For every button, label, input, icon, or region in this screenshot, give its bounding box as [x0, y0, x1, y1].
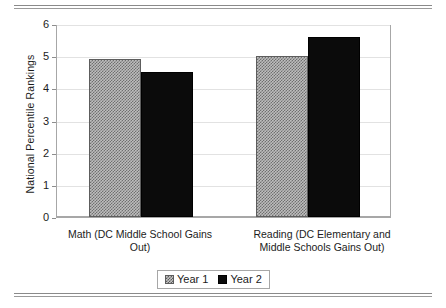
y-tick-label-5: 5	[3, 51, 49, 62]
category-label-reading-line1: Reading (DC Elementary and	[222, 228, 422, 241]
category-label-math-line1: Math (DC Middle School Gains	[40, 228, 240, 241]
y-tick-mark-0	[52, 218, 56, 219]
bottom-rule-line-2	[14, 296, 432, 297]
plot-area	[56, 25, 391, 218]
legend-item-year-1: Year 1	[165, 273, 208, 285]
category-label-math-line2: Out)	[40, 241, 240, 254]
legend-swatch-year-2-icon	[218, 275, 227, 284]
chart-legend: Year 1 Year 2	[157, 270, 270, 289]
bottom-rule	[14, 293, 432, 297]
top-rule	[14, 5, 432, 9]
legend-label-year-1: Year 1	[177, 273, 208, 285]
legend-item-year-2: Year 2	[218, 273, 261, 285]
gridline-6	[57, 25, 390, 26]
top-rule-line-1	[14, 5, 432, 6]
bottom-rule-line-1	[14, 293, 432, 294]
top-rule-line-2	[14, 8, 432, 9]
y-tick-label-6: 6	[3, 19, 49, 30]
category-label-math: Math (DC Middle School Gains Out)	[40, 228, 240, 254]
y-tick-label-0: 0	[3, 212, 49, 223]
y-tick-label-4: 4	[3, 83, 49, 94]
bar-math-year-2	[141, 72, 193, 217]
bar-reading-year-1	[256, 56, 308, 217]
category-label-reading: Reading (DC Elementary and Middle School…	[222, 228, 422, 254]
y-tick-label-3: 3	[3, 116, 49, 127]
legend-label-year-2: Year 2	[230, 273, 261, 285]
y-tick-label-1: 1	[3, 180, 49, 191]
bar-reading-year-2	[308, 37, 360, 217]
bar-math-year-1	[89, 59, 141, 217]
y-tick-label-2: 2	[3, 148, 49, 159]
legend-swatch-year-1-icon	[165, 275, 174, 284]
figure-container: National Percentile Rankings 0123456 Mat…	[0, 0, 446, 308]
category-label-reading-line2: Middle Schools Gains Out)	[222, 241, 422, 254]
